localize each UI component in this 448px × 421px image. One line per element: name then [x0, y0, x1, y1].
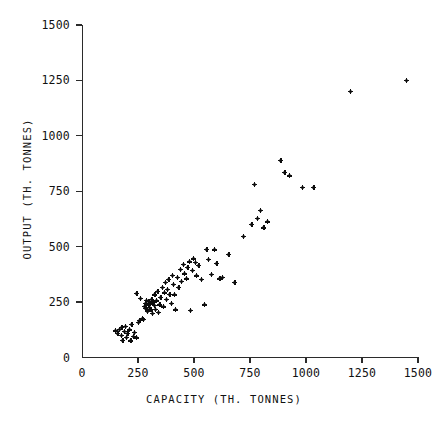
scatter-point	[206, 257, 211, 262]
scatter-point	[282, 170, 287, 175]
scatter-point	[123, 324, 128, 329]
scatter-point-core	[242, 235, 245, 238]
scatter-point-core	[210, 273, 213, 276]
scatter-point-core	[218, 277, 221, 280]
scatter-point	[155, 289, 160, 294]
scatter-point-core	[123, 330, 126, 333]
scatter-point	[172, 292, 177, 297]
y-tick-mark	[76, 24, 82, 25]
scatter-point-core	[256, 217, 259, 220]
scatter-point-core	[262, 226, 265, 229]
scatter-point-core	[283, 171, 286, 174]
scatter-point	[128, 338, 133, 343]
y-tick-label: 0	[18, 351, 70, 365]
scatter-point	[138, 296, 143, 301]
scatter-point	[117, 327, 122, 332]
scatter-point-core	[213, 248, 216, 251]
scatter-point	[214, 261, 219, 266]
scatter-point	[127, 327, 132, 332]
scatter-point	[140, 316, 145, 321]
scatter-point	[151, 300, 156, 305]
scatter-point-core	[151, 312, 154, 315]
scatter-point	[142, 304, 147, 309]
scatter-point-core	[138, 319, 141, 322]
scatter-point	[287, 173, 292, 178]
scatter-point	[148, 301, 153, 306]
scatter-point	[166, 277, 171, 282]
y-tick-label: 1250	[18, 73, 70, 87]
scatter-point-core	[165, 298, 168, 301]
x-tick-mark	[305, 357, 306, 363]
x-tick-mark	[249, 357, 250, 363]
scatter-point	[136, 320, 141, 325]
x-tick-mark	[193, 357, 194, 363]
y-tick-label: 1500	[18, 18, 70, 32]
scatter-point	[170, 273, 175, 278]
scatter-point	[131, 334, 136, 339]
scatter-point-core	[288, 174, 291, 177]
scatter-point-core	[158, 303, 161, 306]
scatter-point-core	[173, 293, 176, 296]
scatter-point	[175, 275, 180, 280]
scatter-point	[150, 311, 155, 316]
scatter-point	[143, 301, 148, 306]
scatter-point	[232, 280, 237, 285]
y-tick-mark	[76, 80, 82, 81]
scatter-point	[249, 222, 254, 227]
scatter-point-core	[133, 331, 136, 334]
scatter-point-core	[182, 263, 185, 266]
scatter-point	[171, 282, 176, 287]
scatter-point	[153, 307, 158, 312]
scatter-point-core	[170, 302, 173, 305]
scatter-point-core	[174, 308, 177, 311]
x-tick-label: 0	[52, 366, 112, 380]
scatter-point	[173, 307, 178, 312]
scatter-point-core	[188, 260, 191, 263]
scatter-point-core	[128, 328, 131, 331]
scatter-point	[162, 290, 167, 295]
scatter-point-core	[144, 302, 147, 305]
x-axis-title: CAPACITY (TH. TONNES)	[0, 393, 448, 405]
scatter-point-core	[177, 286, 180, 289]
scatter-point-core	[203, 303, 206, 306]
scatter-point	[209, 272, 214, 277]
scatter-point-core	[215, 262, 218, 265]
scatter-point	[145, 309, 150, 314]
scatter-point-core	[135, 292, 138, 295]
scatter-point	[182, 271, 187, 276]
scatter-point-core	[137, 321, 140, 324]
x-tick-label: 1500	[388, 366, 448, 380]
scatter-point-core	[147, 300, 150, 303]
scatter-point-core	[197, 264, 200, 267]
scatter-point	[220, 275, 225, 280]
scatter-point-core	[207, 258, 210, 261]
scatter-point-core	[233, 281, 236, 284]
scatter-point	[404, 78, 409, 83]
scatter-point-core	[185, 277, 188, 280]
x-tick-mark	[361, 357, 362, 363]
scatter-point	[154, 298, 159, 303]
scatter-point	[119, 325, 124, 330]
scatter-point	[113, 328, 118, 333]
scatter-point	[167, 292, 172, 297]
scatter-point	[226, 252, 231, 257]
scatter-point	[188, 308, 193, 313]
scatter-point	[125, 331, 130, 336]
scatter-point	[191, 256, 196, 261]
scatter-point	[134, 291, 139, 296]
scatter-point-core	[157, 311, 160, 314]
scatter-point	[255, 216, 260, 221]
scatter-point	[129, 322, 134, 327]
scatter-point-core	[120, 334, 123, 337]
scatter-point	[196, 263, 201, 268]
y-tick-mark	[76, 191, 82, 192]
scatter-point-core	[143, 305, 146, 308]
scatter-point	[261, 225, 266, 230]
scatter-point-core	[159, 296, 162, 299]
scatter-point	[265, 219, 270, 224]
scatter-point-core	[144, 307, 147, 310]
y-tick-mark	[76, 135, 82, 136]
scatter-point-core	[301, 186, 304, 189]
x-tick-label: 250	[108, 366, 168, 380]
scatter-point	[202, 302, 207, 307]
